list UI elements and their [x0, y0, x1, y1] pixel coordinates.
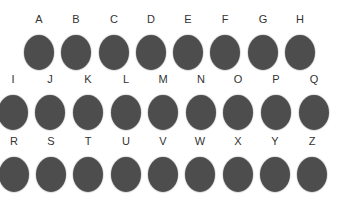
letter-label: J — [35, 72, 65, 86]
letter-item-t: T — [73, 134, 103, 192]
letter-label: U — [111, 134, 141, 148]
letter-dot-button[interactable] — [248, 35, 278, 70]
letter-item-j: J — [35, 72, 65, 130]
letter-label: A — [24, 12, 54, 26]
letter-item-s: S — [36, 134, 66, 192]
letter-dot-button[interactable] — [24, 35, 54, 70]
letter-label: V — [148, 134, 178, 148]
letter-item-y: Y — [260, 134, 290, 192]
letter-dot-button[interactable] — [111, 95, 141, 130]
letter-dot-button[interactable] — [173, 35, 203, 70]
letter-item-u: U — [111, 134, 141, 192]
letter-dot-button[interactable] — [0, 157, 29, 192]
letter-dot-button[interactable] — [136, 35, 166, 70]
letter-label: W — [185, 134, 215, 148]
letter-label: P — [261, 72, 291, 86]
letter-label: Z — [297, 134, 327, 148]
letter-label: I — [0, 72, 28, 86]
letter-dot-button[interactable] — [61, 35, 91, 70]
letter-label: B — [61, 12, 91, 26]
letter-item-x: X — [223, 134, 253, 192]
letter-item-k: K — [73, 72, 103, 130]
letter-dot-button[interactable] — [297, 157, 327, 192]
letter-label: O — [223, 72, 253, 86]
letter-label: Y — [260, 134, 290, 148]
letter-dot-button[interactable] — [73, 157, 103, 192]
letter-item-i: I — [0, 72, 28, 130]
letter-label: M — [148, 72, 178, 86]
letter-item-c: C — [99, 12, 129, 70]
letter-label: F — [210, 12, 240, 26]
letter-item-w: W — [185, 134, 215, 192]
letter-item-p: P — [261, 72, 291, 130]
letter-item-v: V — [148, 134, 178, 192]
letter-dot-button[interactable] — [35, 95, 65, 130]
letter-label: C — [99, 12, 129, 26]
letter-dot-button[interactable] — [73, 95, 103, 130]
letter-label: G — [248, 12, 278, 26]
letter-dot-button[interactable] — [148, 95, 178, 130]
letter-label: T — [73, 134, 103, 148]
letter-item-r: R — [0, 134, 29, 192]
letter-label: E — [173, 12, 203, 26]
letter-label: S — [36, 134, 66, 148]
letter-dot-button[interactable] — [185, 157, 215, 192]
letter-dot-button[interactable] — [285, 35, 315, 70]
letter-label: N — [186, 72, 216, 86]
letter-item-z: Z — [297, 134, 327, 192]
letter-dot-button[interactable] — [299, 95, 329, 130]
letter-item-q: Q — [299, 72, 329, 130]
letter-item-g: G — [248, 12, 278, 70]
letter-dot-button[interactable] — [210, 35, 240, 70]
letter-label: R — [0, 134, 29, 148]
letter-label: L — [111, 72, 141, 86]
letter-dot-button[interactable] — [111, 157, 141, 192]
letter-item-a: A — [24, 12, 54, 70]
letter-dot-button[interactable] — [223, 95, 253, 130]
letter-item-l: L — [111, 72, 141, 130]
letter-label: Q — [299, 72, 329, 86]
letter-label: H — [285, 12, 315, 26]
letter-item-f: F — [210, 12, 240, 70]
letter-label: D — [136, 12, 166, 26]
letter-item-o: O — [223, 72, 253, 130]
letter-item-d: D — [136, 12, 166, 70]
letter-dot-button[interactable] — [260, 157, 290, 192]
letter-item-m: M — [148, 72, 178, 130]
letter-item-e: E — [173, 12, 203, 70]
letter-dot-button[interactable] — [36, 157, 66, 192]
letter-dot-button[interactable] — [223, 157, 253, 192]
letter-dot-button[interactable] — [186, 95, 216, 130]
letter-item-n: N — [186, 72, 216, 130]
letter-dot-button[interactable] — [261, 95, 291, 130]
letter-item-h: H — [285, 12, 315, 70]
letter-label: X — [223, 134, 253, 148]
letter-item-b: B — [61, 12, 91, 70]
letter-label: K — [73, 72, 103, 86]
letter-dot-button[interactable] — [148, 157, 178, 192]
letter-dot-button[interactable] — [0, 95, 28, 130]
letter-dot-button[interactable] — [99, 35, 129, 70]
